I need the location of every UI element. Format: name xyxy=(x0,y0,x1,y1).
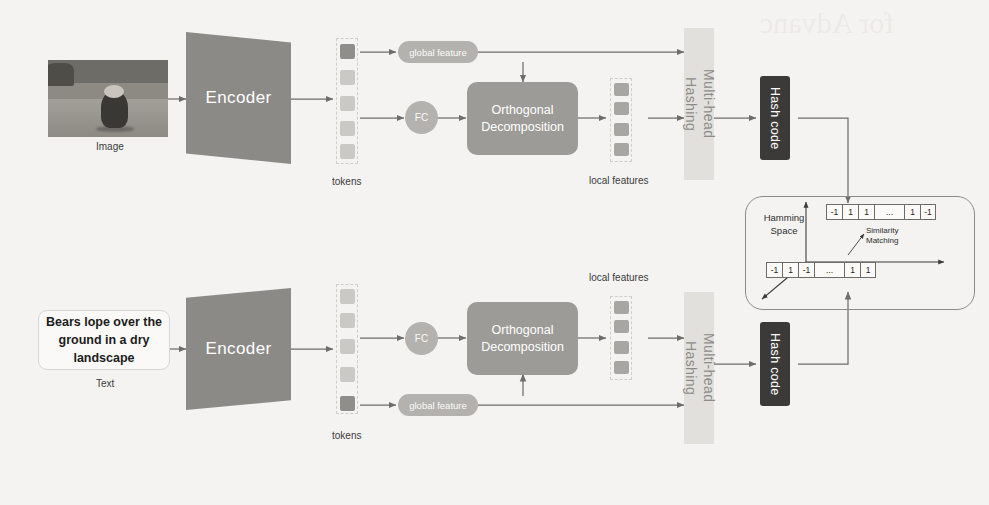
image-encoder-block: Encoder xyxy=(186,32,291,164)
text-hash-code-label: Hash code xyxy=(768,333,782,395)
bit-cell: -1 xyxy=(766,262,782,278)
image-global-feature-pill: global feature xyxy=(398,41,478,63)
text-multihead-line1: Multi-head xyxy=(701,333,717,402)
image-local-feature xyxy=(614,102,629,115)
image-local-feature xyxy=(614,83,629,96)
image-orthogonal-decomposition-block: Orthogonal Decomposition xyxy=(467,82,578,155)
bit-cell: 1 xyxy=(844,262,860,278)
image-fc-node: FC xyxy=(405,101,438,134)
bit-cell-ellipsis: ... xyxy=(874,204,904,220)
hamming-bottom-code-row: -1 1 -1 ... 1 1 xyxy=(766,262,876,278)
bit-cell: 1 xyxy=(858,204,874,220)
text-global-feature-pill: global feature xyxy=(398,394,478,416)
image-local-feature xyxy=(614,123,629,136)
text-multihead-hashing-block: Multi-head Hashing xyxy=(684,292,714,444)
bit-cell: 1 xyxy=(860,262,876,278)
image-local-features-label: local features xyxy=(589,175,648,186)
image-hash-code-label: Hash code xyxy=(768,87,782,149)
input-image-thumbnail xyxy=(48,60,168,137)
text-hash-code-block: Hash code xyxy=(760,322,790,406)
text-local-feature xyxy=(614,341,629,354)
image-multihead-line2: Hashing xyxy=(683,77,699,131)
image-fc-label: FC xyxy=(415,112,428,123)
image-local-feature xyxy=(614,143,629,156)
hamming-title-line1: Hamming xyxy=(754,212,814,225)
text-orthogonal-line1: Orthogonal xyxy=(481,322,564,339)
bit-cell: 1 xyxy=(904,204,920,220)
text-fc-node: FC xyxy=(405,322,438,355)
image-encoder-label: Encoder xyxy=(205,88,271,108)
text-token xyxy=(340,313,355,328)
text-tokens-label: tokens xyxy=(332,430,361,441)
page-bleed-watermark: for Advanc xyxy=(760,6,894,40)
similarity-line1: Similarity xyxy=(866,226,898,236)
text-orthogonal-line2: Decomposition xyxy=(481,339,564,356)
hamming-space-title: Hamming Space xyxy=(754,212,814,238)
input-image-label: Image xyxy=(96,141,124,152)
text-token xyxy=(340,339,355,354)
text-orthogonal-decomposition-block: Orthogonal Decomposition xyxy=(467,302,578,375)
bit-cell: -1 xyxy=(798,262,814,278)
bit-cell-ellipsis: ... xyxy=(814,262,844,278)
text-multihead-line2: Hashing xyxy=(683,341,699,395)
hamming-top-code-row: -1 1 1 ... 1 -1 xyxy=(826,204,936,220)
image-token xyxy=(340,70,355,85)
text-encoder-block: Encoder xyxy=(186,288,291,410)
bit-cell: 1 xyxy=(842,204,858,220)
input-text-label: Text xyxy=(96,378,114,389)
hamming-title-line2: Space xyxy=(754,225,814,238)
bit-cell: -1 xyxy=(920,204,936,220)
text-global-feature-label: global feature xyxy=(409,400,467,411)
text-local-feature xyxy=(614,320,629,333)
image-token xyxy=(340,96,355,111)
text-token xyxy=(340,367,355,382)
figure-canvas: for Advanc xyxy=(0,0,989,505)
image-multihead-line1: Multi-head xyxy=(701,69,717,138)
text-fc-label: FC xyxy=(415,333,428,344)
image-orthogonal-line2: Decomposition xyxy=(481,119,564,136)
bit-cell: 1 xyxy=(782,262,798,278)
image-orthogonal-line1: Orthogonal xyxy=(481,102,564,119)
input-text-value: Bears lope over the ground in a dry land… xyxy=(45,313,163,367)
image-multihead-hashing-block: Multi-head Hashing xyxy=(684,28,714,180)
image-token-cls xyxy=(340,44,355,59)
bit-cell: -1 xyxy=(826,204,842,220)
text-encoder-label: Encoder xyxy=(205,339,271,359)
similarity-line2: Matching xyxy=(866,236,898,246)
image-tokens-label: tokens xyxy=(332,176,361,187)
text-local-features-label: local features xyxy=(589,272,648,283)
text-token-cls xyxy=(340,396,355,411)
input-text-box: Bears lope over the ground in a dry land… xyxy=(38,310,170,370)
text-local-feature xyxy=(614,301,629,314)
text-token xyxy=(340,289,355,304)
similarity-matching-label: Similarity Matching xyxy=(866,226,898,247)
image-token xyxy=(340,144,355,159)
image-token xyxy=(340,121,355,136)
image-global-feature-label: global feature xyxy=(409,47,467,58)
text-local-feature xyxy=(614,361,629,374)
image-hash-code-block: Hash code xyxy=(760,76,790,160)
